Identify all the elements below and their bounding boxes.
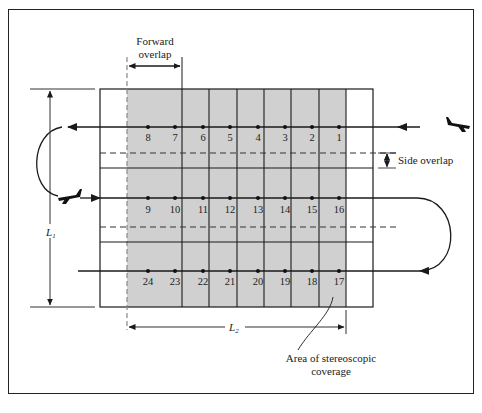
svg-text:7: 7 [172,132,177,143]
svg-text:16: 16 [334,204,345,215]
svg-text:9: 9 [145,204,150,215]
airplane-icon [58,189,82,204]
svg-text:2: 2 [309,132,314,143]
svg-text:1: 1 [336,132,341,143]
svg-text:Area of stereoscopic: Area of stereoscopic [286,352,377,364]
svg-text:coverage: coverage [311,365,351,377]
flight-plan-diagram: 8 7 6 5 4 3 2 1 9 10 11 12 13 14 15 16 2… [0,0,482,413]
svg-text:13: 13 [253,204,264,215]
svg-text:19: 19 [280,276,291,287]
svg-text:Forward: Forward [136,35,174,47]
svg-text:6: 6 [200,132,205,143]
svg-text:24: 24 [143,276,154,287]
svg-text:Side overlap: Side overlap [398,154,454,166]
side-overlap-dimension: Side overlap [378,153,454,168]
svg-text:8: 8 [145,132,150,143]
svg-text:12: 12 [225,204,236,215]
L2-dimension: L2 [129,310,346,335]
svg-text:5: 5 [227,132,232,143]
svg-text:overlap: overlap [139,48,172,60]
svg-text:21: 21 [225,276,236,287]
svg-text:L2: L2 [228,321,239,335]
svg-text:20: 20 [253,276,264,287]
svg-text:22: 22 [198,276,209,287]
svg-text:14: 14 [280,204,291,215]
airplane-icon [446,117,470,132]
svg-text:18: 18 [307,276,318,287]
svg-text:15: 15 [307,204,318,215]
svg-text:11: 11 [198,204,208,215]
stereoscopic-coverage-callout: Area of stereoscopic coverage [286,297,377,377]
svg-text:4: 4 [255,132,261,143]
turn-right [417,198,451,271]
svg-text:10: 10 [170,204,181,215]
forward-overlap-dimension: Forward overlap [129,35,182,89]
svg-text:23: 23 [170,276,181,287]
svg-text:3: 3 [282,132,287,143]
turn-left [37,127,62,196]
svg-text:17: 17 [334,276,345,287]
